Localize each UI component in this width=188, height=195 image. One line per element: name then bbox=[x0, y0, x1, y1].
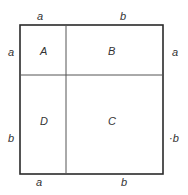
left-label-a: a bbox=[8, 46, 14, 58]
top-label-b: b bbox=[120, 10, 126, 22]
square-partition-diagram: a b a b a ·b a b A B D C bbox=[0, 0, 188, 195]
region-label-a: A bbox=[39, 45, 47, 57]
right-label-b: ·b bbox=[169, 132, 179, 144]
left-label-b: b bbox=[8, 132, 14, 144]
top-label-a: a bbox=[37, 10, 43, 22]
region-label-c: C bbox=[108, 115, 116, 127]
region-label-d: D bbox=[40, 115, 48, 127]
bottom-label-a: a bbox=[36, 176, 42, 188]
region-label-b: B bbox=[108, 45, 115, 57]
right-label-a: a bbox=[172, 46, 178, 58]
bottom-label-b: b bbox=[121, 176, 127, 188]
